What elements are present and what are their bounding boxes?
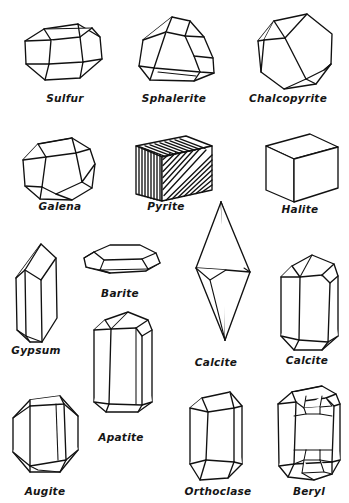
figure-galena (14, 128, 104, 208)
figure-augite (8, 388, 88, 480)
label-beryl: Beryl (280, 486, 338, 497)
label-gypsum: Gypsum (0, 345, 72, 356)
label-calcite-scalenohedron: Calcite (183, 357, 249, 368)
label-augite: Augite (10, 486, 80, 497)
label-apatite: Apatite (84, 432, 158, 443)
figure-beryl (270, 380, 348, 484)
figure-calcite-prism (270, 250, 348, 360)
label-chalcopyrite: Chalcopyrite (236, 93, 340, 104)
label-barite: Barite (85, 288, 155, 299)
figure-gypsum (4, 238, 70, 350)
label-calcite-prism: Calcite (274, 355, 340, 366)
label-sphalerite: Sphalerite (129, 93, 219, 104)
label-galena: Galena (20, 201, 100, 212)
figure-halite (258, 126, 344, 208)
figure-pyrite (128, 128, 218, 208)
figure-barite (74, 240, 166, 284)
label-orthoclase: Orthoclase (170, 486, 266, 497)
figure-apatite (80, 306, 164, 422)
figure-chalcopyrite (244, 8, 340, 92)
crystal-forms-plate: Sulfur Sphalerite (0, 0, 349, 503)
label-sulfur: Sulfur (25, 93, 105, 104)
label-halite: Halite (262, 204, 338, 215)
figure-sulfur (18, 12, 110, 92)
figure-calcite-scalenohedron (186, 198, 260, 348)
figure-sphalerite (128, 10, 224, 92)
figure-orthoclase (180, 386, 252, 486)
